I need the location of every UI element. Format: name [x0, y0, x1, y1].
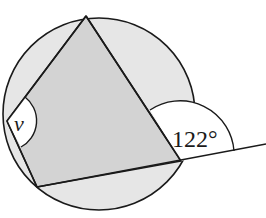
interior-angle-label: v	[14, 111, 24, 136]
geometry-diagram: v 122°	[0, 0, 266, 218]
exterior-angle-label: 122°	[172, 126, 218, 152]
